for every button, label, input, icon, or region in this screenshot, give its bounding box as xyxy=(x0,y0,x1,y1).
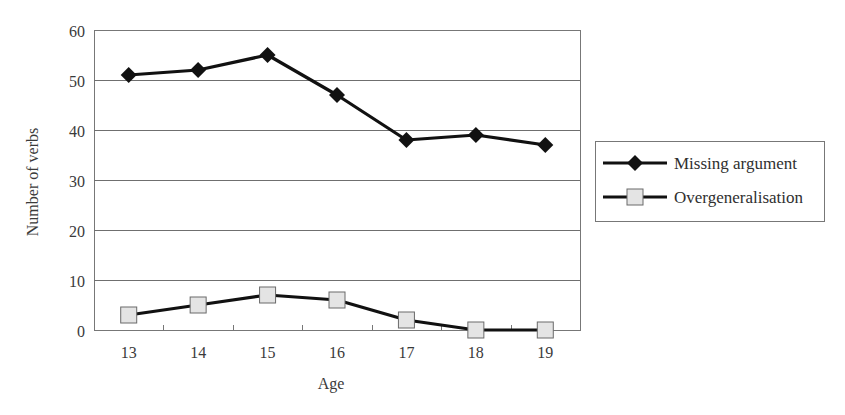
legend-item-overgeneralisation: Overgeneralisation xyxy=(603,188,804,207)
y-axis-title: Number of verbs xyxy=(24,128,41,236)
y-tick-label: 40 xyxy=(69,123,85,140)
square-marker-icon xyxy=(537,322,553,338)
square-marker-icon xyxy=(121,307,137,323)
square-marker-icon xyxy=(329,292,345,308)
legend-label: Missing argument xyxy=(674,154,797,173)
y-tick-label: 30 xyxy=(69,173,85,190)
y-axis-tick-labels: 0102030405060 xyxy=(69,23,85,340)
legend-label: Overgeneralisation xyxy=(674,188,804,207)
square-marker-icon xyxy=(398,312,414,328)
square-marker-icon xyxy=(627,189,643,205)
y-tick-label: 60 xyxy=(69,23,85,40)
y-tick-label: 20 xyxy=(69,223,85,240)
x-tick-label: 19 xyxy=(537,344,553,361)
x-axis-title: Age xyxy=(318,375,345,393)
x-tick-label: 17 xyxy=(398,344,414,361)
square-marker-icon xyxy=(468,322,484,338)
x-tick-label: 18 xyxy=(468,344,484,361)
line-chart: 0102030405060 13141516171819 Number of v… xyxy=(0,0,845,415)
x-tick-label: 16 xyxy=(329,344,345,361)
y-tick-label: 50 xyxy=(69,73,85,90)
y-tick-label: 10 xyxy=(69,273,85,290)
x-axis-tick-labels: 13141516171819 xyxy=(121,344,554,361)
x-tick-label: 15 xyxy=(260,344,276,361)
square-marker-icon xyxy=(260,287,276,303)
y-tick-label: 0 xyxy=(77,323,85,340)
legend: Missing argument Overgeneralisation xyxy=(596,142,825,222)
square-marker-icon xyxy=(190,297,206,313)
x-tick-label: 14 xyxy=(190,344,206,361)
x-tick-label: 13 xyxy=(121,344,137,361)
